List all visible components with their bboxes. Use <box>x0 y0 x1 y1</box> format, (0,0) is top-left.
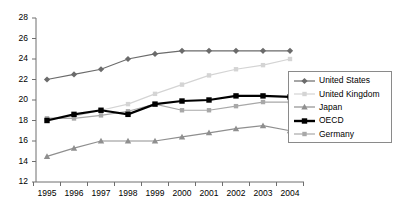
data-point-marker <box>206 48 212 54</box>
x-axis-tick-label: 2001 <box>194 189 224 198</box>
y-axis-tick-label: 12 <box>12 177 28 186</box>
legend-marker-square-bold-icon <box>292 115 317 127</box>
line-chart: 282624222018161412 199519961997199819992… <box>0 0 396 209</box>
data-point-marker <box>152 101 157 106</box>
x-axis-tick-label: 2004 <box>275 189 305 198</box>
x-axis-tick-label: 2003 <box>248 189 278 198</box>
x-axis-tick-label: 1995 <box>32 189 62 198</box>
series-line <box>47 126 290 157</box>
data-point-marker <box>261 63 265 67</box>
series-line <box>47 102 290 118</box>
series-united-kingdom <box>45 57 292 121</box>
data-point-marker <box>99 113 103 117</box>
legend-marker-square-icon <box>292 128 317 140</box>
y-axis-tick-label: 16 <box>12 136 28 145</box>
y-axis-tick-label: 26 <box>12 34 28 43</box>
data-point-marker <box>234 104 238 108</box>
series-line <box>47 59 290 118</box>
data-point-marker <box>44 118 49 123</box>
data-point-marker <box>71 71 77 77</box>
legend-marker-square-icon <box>292 88 317 100</box>
legend-label: Germany <box>317 130 354 139</box>
series-oecd <box>44 93 292 123</box>
series-line <box>47 51 290 80</box>
data-point-marker <box>260 93 265 98</box>
legend-marker-diamond-icon <box>292 75 317 87</box>
data-point-marker <box>126 102 130 106</box>
y-axis-tick-label: 14 <box>12 157 28 166</box>
data-point-marker <box>153 92 157 96</box>
data-point-marker <box>302 92 306 96</box>
data-point-marker <box>233 93 238 98</box>
data-point-marker <box>301 78 307 84</box>
y-axis-tick-label: 28 <box>12 13 28 22</box>
legend-label: United States <box>317 76 370 85</box>
y-axis-tick-label: 22 <box>12 75 28 84</box>
data-point-marker <box>98 108 103 113</box>
legend-item-oecd: OECD <box>289 114 391 127</box>
legend-item-japan: Japan <box>289 101 391 114</box>
legend-label: OECD <box>317 116 344 125</box>
y-axis-tick-label: 24 <box>12 54 28 63</box>
data-point-marker <box>260 48 266 54</box>
legend-item-united-kingdom: United Kingdom <box>289 87 391 100</box>
data-point-marker <box>152 51 158 57</box>
y-axis-tick-label: 20 <box>12 95 28 104</box>
data-point-marker <box>179 48 185 54</box>
x-axis-tick-label: 1998 <box>113 189 143 198</box>
legend-label: Japan <box>317 103 342 112</box>
data-point-marker <box>71 112 76 117</box>
legend-label: United Kingdom <box>317 90 379 99</box>
data-point-marker <box>125 56 131 62</box>
data-point-marker <box>261 100 265 104</box>
data-point-marker <box>207 73 211 77</box>
data-point-marker <box>302 118 307 123</box>
legend-item-united-states: United States <box>289 74 391 87</box>
data-point-marker <box>207 108 211 112</box>
x-axis-tick-label: 2000 <box>167 189 197 198</box>
chart-legend: United States United Kingdom Japan OECD … <box>288 71 392 143</box>
legend-marker-triangle-icon <box>292 101 317 113</box>
data-point-marker <box>180 82 184 86</box>
series-japan <box>44 122 293 159</box>
data-point-marker <box>179 98 184 103</box>
data-point-marker <box>234 67 238 71</box>
y-axis-tick-label: 18 <box>12 116 28 125</box>
data-point-marker <box>206 97 211 102</box>
x-axis-tick-label: 2002 <box>221 189 251 198</box>
series-united-states <box>44 48 293 83</box>
data-point-marker <box>125 112 130 117</box>
x-axis-tick-label: 1996 <box>59 189 89 198</box>
data-point-marker <box>180 108 184 112</box>
data-point-marker <box>302 132 306 136</box>
data-point-marker <box>288 57 292 61</box>
x-axis-tick-label: 1997 <box>86 189 116 198</box>
data-point-marker <box>44 76 50 82</box>
legend-item-germany: Germany <box>289 128 391 141</box>
data-point-marker <box>287 48 293 54</box>
x-axis-tick-label: 1999 <box>140 189 170 198</box>
data-point-marker <box>98 66 104 72</box>
data-point-marker <box>233 48 239 54</box>
